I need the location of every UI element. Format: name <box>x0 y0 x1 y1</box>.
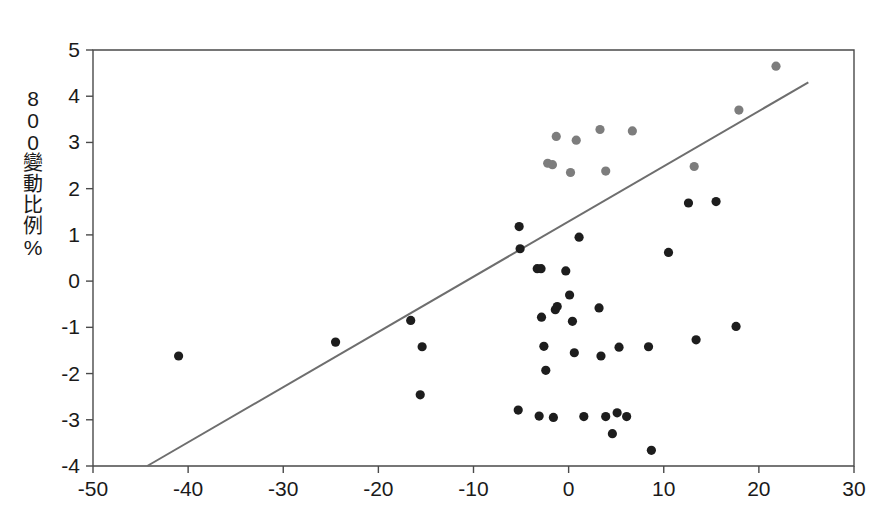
x-tick-label: 30 <box>842 477 865 500</box>
data-point <box>331 338 340 347</box>
x-tick-label: -50 <box>78 477 108 500</box>
data-point <box>541 366 550 375</box>
y-tick-label: -2 <box>61 362 80 385</box>
y-tick-label: -4 <box>61 454 80 477</box>
y-tick-label: 4 <box>68 84 80 107</box>
data-point <box>561 266 570 275</box>
y-axis-label-char-1: 0 <box>27 110 39 132</box>
data-point <box>548 160 557 169</box>
data-point <box>628 126 637 135</box>
data-point <box>416 390 425 399</box>
data-point <box>622 412 631 421</box>
data-point <box>568 317 577 326</box>
data-point <box>734 105 743 114</box>
trendline <box>147 82 808 466</box>
data-point <box>690 162 699 171</box>
data-point <box>536 264 545 273</box>
data-point <box>684 198 693 207</box>
data-point <box>553 302 562 311</box>
y-axis-label-char-2: 0 <box>27 132 39 154</box>
y-axis-label-char-7: % <box>24 237 43 259</box>
data-point <box>552 132 561 141</box>
data-point <box>771 62 780 71</box>
x-tick-label: -20 <box>363 477 393 500</box>
data-point <box>594 303 603 312</box>
y-axis-label-char-0: 8 <box>27 88 39 110</box>
data-point <box>515 222 524 231</box>
y-tick-label: 2 <box>68 177 80 200</box>
y-axis-label: 8 0 0 變 動 比 例 % <box>12 88 54 259</box>
x-tick-label: -40 <box>173 477 203 500</box>
data-point <box>731 322 740 331</box>
x-tick-label: 0 <box>563 477 575 500</box>
x-tick-label: 20 <box>747 477 770 500</box>
data-point <box>566 168 575 177</box>
data-point <box>514 405 523 414</box>
y-tick-label: 3 <box>68 130 80 153</box>
data-point <box>595 125 604 134</box>
data-point <box>601 412 610 421</box>
x-tick-label: -10 <box>458 477 488 500</box>
data-point <box>613 408 622 417</box>
y-tick-label: -3 <box>61 408 80 431</box>
y-tick-label: 5 <box>68 38 80 61</box>
y-tick-label: 1 <box>68 223 80 246</box>
data-point <box>570 348 579 357</box>
data-point <box>565 290 574 299</box>
data-point <box>174 351 183 360</box>
data-point <box>711 197 720 206</box>
data-point <box>572 136 581 145</box>
data-point <box>579 412 588 421</box>
scatter-chart-figure: 8 0 0 變 動 比 例 % -4-3-2-1012345-50-40-30-… <box>0 0 888 522</box>
data-point <box>601 167 610 176</box>
data-point <box>537 313 546 322</box>
data-points-group <box>174 62 781 455</box>
data-point <box>647 446 656 455</box>
data-point <box>596 351 605 360</box>
x-tick-label: -30 <box>268 477 298 500</box>
data-point <box>608 429 617 438</box>
data-point <box>406 316 415 325</box>
y-axis-label-char-3: 變 <box>23 153 43 174</box>
data-point <box>614 343 623 352</box>
data-point <box>535 411 544 420</box>
y-axis-label-char-4: 動 <box>23 174 43 195</box>
data-point <box>418 342 427 351</box>
y-tick-label: 0 <box>68 269 80 292</box>
y-tick-label: -1 <box>61 315 80 338</box>
data-point <box>549 413 558 422</box>
x-tick-label: 10 <box>652 477 675 500</box>
data-point <box>644 342 653 351</box>
y-axis-label-char-5: 比 <box>23 195 43 216</box>
data-point <box>574 233 583 242</box>
plot-svg: -4-3-2-1012345-50-40-30-20-100102030 <box>0 0 888 522</box>
data-point <box>516 244 525 253</box>
data-point <box>664 248 673 257</box>
tick-labels-group: -4-3-2-1012345-50-40-30-20-100102030 <box>61 38 865 500</box>
data-point <box>539 342 548 351</box>
data-point <box>691 335 700 344</box>
y-axis-label-char-6: 例 <box>23 216 43 237</box>
trendline-segment <box>147 82 808 466</box>
